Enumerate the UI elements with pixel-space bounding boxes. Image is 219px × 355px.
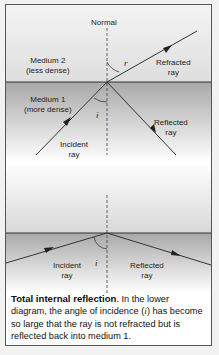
- angle-i-label: i: [96, 110, 99, 120]
- lower-medium-1-region: [6, 233, 211, 293]
- medium-2-name: Medium 2: [26, 56, 70, 66]
- lower-incident-label-line2: ray: [53, 271, 81, 281]
- reflected-label-line1: Reflected: [154, 118, 188, 128]
- figure-caption: Total internal reflection. In the lower …: [11, 293, 207, 342]
- refracted-label-line2: ray: [156, 68, 191, 78]
- caption-title: Total internal reflection: [11, 293, 116, 304]
- lower-reflected-label-line2: ray: [130, 271, 164, 281]
- lower-incident-label-line1: Incident: [53, 261, 81, 271]
- lower-medium-2-region: [6, 162, 211, 233]
- normal-label: Normal: [91, 18, 117, 28]
- reflected-label-line2: ray: [154, 128, 188, 138]
- medium-2-label: Medium 2 (less dense): [26, 56, 70, 76]
- reflected-ray-label: Reflected ray: [154, 118, 188, 138]
- lower-incident-ray-label: Incident ray: [53, 261, 81, 281]
- angle-r-label: r: [124, 58, 128, 68]
- lower-reflected-ray-label: Reflected ray: [130, 261, 164, 281]
- medium-1-name: Medium 1: [24, 95, 72, 105]
- refracted-ray-label: Refracted ray: [156, 58, 191, 78]
- refracted-label-line1: Refracted: [156, 58, 191, 68]
- incident-ray-label: Incident ray: [60, 140, 88, 160]
- incident-label-line2: ray: [60, 150, 88, 160]
- medium-1-label: Medium 1 (more dense): [24, 95, 72, 115]
- incident-label-line1: Incident: [60, 140, 88, 150]
- lower-angle-i-label: i: [95, 258, 98, 268]
- lower-reflected-label-line1: Reflected: [130, 261, 164, 271]
- medium-2-desc: (less dense): [26, 66, 70, 76]
- medium-1-desc: (more dense): [24, 105, 72, 115]
